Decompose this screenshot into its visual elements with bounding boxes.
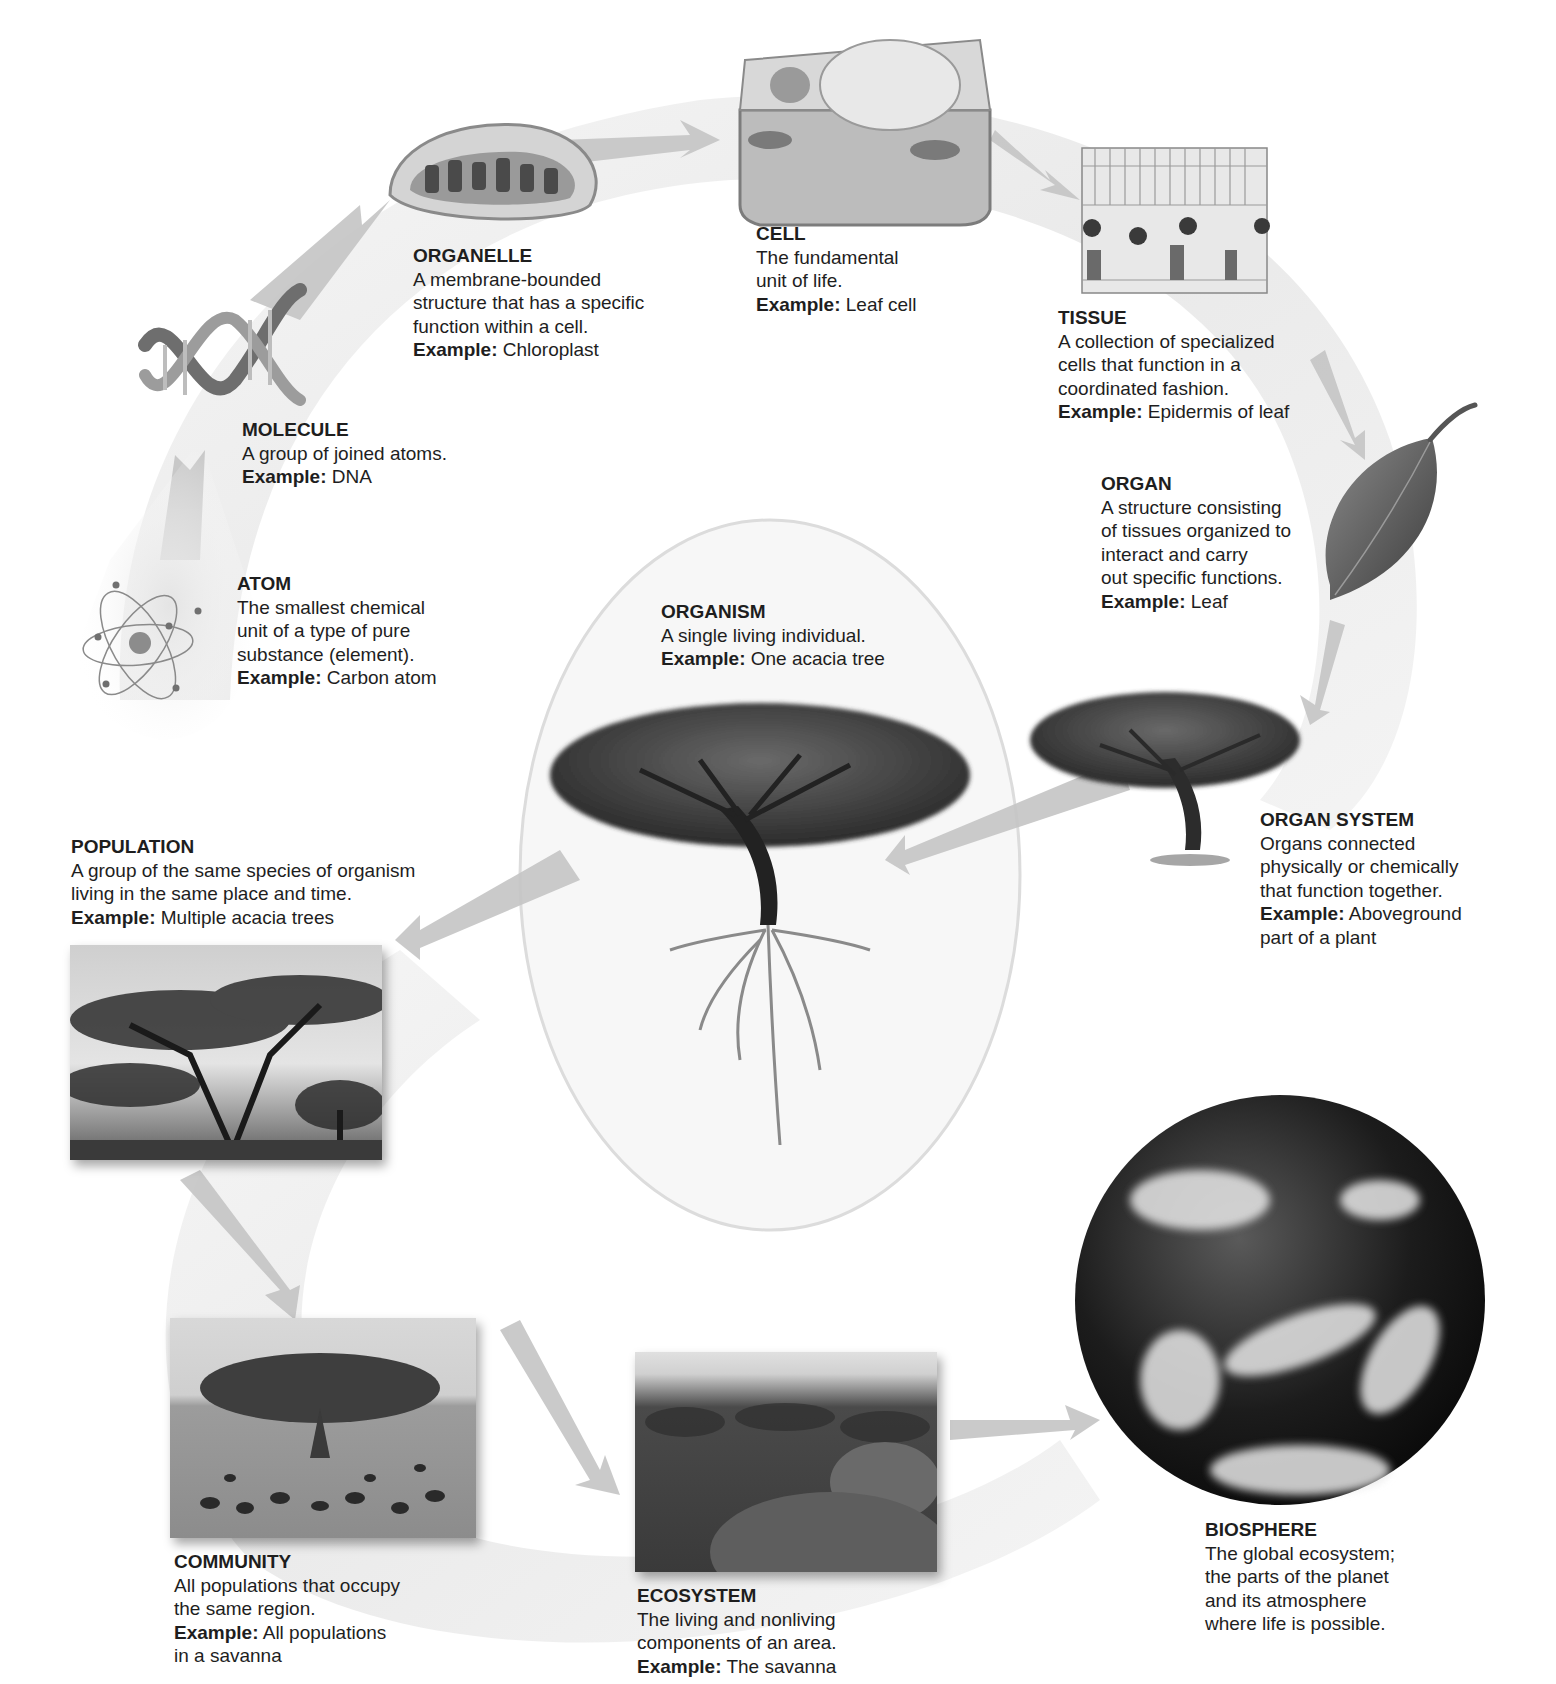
example-key: Example: xyxy=(637,1656,721,1677)
plant-cell-icon xyxy=(740,40,990,225)
leaf-tissue-icon xyxy=(1082,148,1270,293)
level-example: Example: One acacia tree xyxy=(661,647,885,671)
level-example: Example: Leaf xyxy=(1101,590,1291,614)
level-example-continued: part of a plant xyxy=(1260,926,1462,950)
level-description-line: structure that has a specific xyxy=(413,291,644,315)
level-description-line: Organs connected xyxy=(1260,832,1462,856)
example-value: Multiple acacia trees xyxy=(161,907,334,928)
level-description-line: The global ecosystem; xyxy=(1205,1542,1395,1566)
label-organ: ORGAN A structure consisting of tissues … xyxy=(1101,472,1291,613)
example-value: Epidermis of leaf xyxy=(1148,401,1290,422)
level-description-line: physically or chemically xyxy=(1260,855,1462,879)
example-key: Example: xyxy=(1058,401,1142,422)
level-title: POPULATION xyxy=(71,835,415,859)
level-title: BIOSPHERE xyxy=(1205,1518,1395,1542)
level-example: Example: DNA xyxy=(242,465,447,489)
level-title: COMMUNITY xyxy=(174,1550,400,1574)
level-title: ORGAN SYSTEM xyxy=(1260,808,1462,832)
example-key: Example: xyxy=(661,648,745,669)
level-description-line: of tissues organized to xyxy=(1101,519,1291,543)
label-atom: ATOM The smallest chemical unit of a typ… xyxy=(237,572,437,690)
savanna-landscape-photo xyxy=(635,1352,937,1572)
arrow-ecosystem-to-biosphere xyxy=(950,1405,1100,1440)
label-molecule: MOLECULE A group of joined atoms. Exampl… xyxy=(242,418,447,489)
example-key: Example: xyxy=(1101,591,1185,612)
level-title: TISSUE xyxy=(1058,306,1289,330)
level-description-line: A collection of specialized xyxy=(1058,330,1289,354)
example-value: Leaf xyxy=(1191,591,1228,612)
level-example: Example: Leaf cell xyxy=(756,293,917,317)
level-description-line: A group of joined atoms. xyxy=(242,442,447,466)
example-key: Example: xyxy=(71,907,155,928)
level-title: ECOSYSTEM xyxy=(637,1584,837,1608)
level-description-line: cells that function in a xyxy=(1058,353,1289,377)
level-example: Example: Epidermis of leaf xyxy=(1058,400,1289,424)
level-description-line: where life is possible. xyxy=(1205,1612,1395,1636)
example-value: One acacia tree xyxy=(751,648,885,669)
example-key: Example: xyxy=(1260,903,1344,924)
level-description-line: living in the same place and time. xyxy=(71,882,415,906)
example-value: Chloroplast xyxy=(503,339,599,360)
example-key: Example: xyxy=(756,294,840,315)
level-description-line: components of an area. xyxy=(637,1631,837,1655)
label-tissue: TISSUE A collection of specialized cells… xyxy=(1058,306,1289,424)
level-description-line: The smallest chemical xyxy=(237,596,437,620)
example-value: Leaf cell xyxy=(846,294,917,315)
level-title: ATOM xyxy=(237,572,437,596)
label-population: POPULATION A group of the same species o… xyxy=(71,835,415,929)
level-description-line: interact and carry xyxy=(1101,543,1291,567)
level-example: Example: The savanna xyxy=(637,1655,837,1679)
level-title: ORGANISM xyxy=(661,600,885,624)
level-example: Example: Aboveground xyxy=(1260,902,1462,926)
level-description-line: A single living individual. xyxy=(661,624,885,648)
level-description-line: coordinated fashion. xyxy=(1058,377,1289,401)
level-title: ORGANELLE xyxy=(413,244,644,268)
level-title: MOLECULE xyxy=(242,418,447,442)
level-description-line: The fundamental xyxy=(756,246,917,270)
example-key: Example: xyxy=(174,1622,258,1643)
example-key: Example: xyxy=(413,339,497,360)
level-description-line: A membrane-bounded xyxy=(413,268,644,292)
label-organelle: ORGANELLE A membrane-bounded structure t… xyxy=(413,244,644,362)
level-title: CELL xyxy=(756,222,917,246)
level-example-continued: in a savanna xyxy=(174,1644,400,1668)
level-description-line: and its atmosphere xyxy=(1205,1589,1395,1613)
level-example: Example: Multiple acacia trees xyxy=(71,906,415,930)
level-description-line: substance (element). xyxy=(237,643,437,667)
example-value: Aboveground xyxy=(1349,903,1462,924)
level-description-line: unit of life. xyxy=(756,269,917,293)
level-description-line: out specific functions. xyxy=(1101,566,1291,590)
level-description-line: A group of the same species of organism xyxy=(71,859,415,883)
example-value: Carbon atom xyxy=(327,667,437,688)
label-biosphere: BIOSPHERE The global ecosystem; the part… xyxy=(1205,1518,1395,1636)
label-organism: ORGANISM A single living individual. Exa… xyxy=(661,600,885,671)
level-description-line: the same region. xyxy=(174,1597,400,1621)
example-value: All populations xyxy=(263,1622,387,1643)
level-example: Example: Chloroplast xyxy=(413,338,644,362)
label-ecosystem: ECOSYSTEM The living and nonliving compo… xyxy=(637,1584,837,1678)
level-description-line: that function together. xyxy=(1260,879,1462,903)
chloroplast-icon xyxy=(390,124,596,218)
level-description-line: unit of a type of pure xyxy=(237,619,437,643)
level-example: Example: All populations xyxy=(174,1621,400,1645)
level-description-line: The living and nonliving xyxy=(637,1608,837,1632)
label-cell: CELL The fundamental unit of life. Examp… xyxy=(756,222,917,316)
level-title: ORGAN xyxy=(1101,472,1291,496)
level-description-line: A structure consisting xyxy=(1101,496,1291,520)
level-description-line: All populations that occupy xyxy=(174,1574,400,1598)
level-description-line: function within a cell. xyxy=(413,315,644,339)
example-value: DNA xyxy=(332,466,372,487)
earth-globe-icon xyxy=(1075,1095,1485,1505)
level-example: Example: Carbon atom xyxy=(237,666,437,690)
example-value: The savanna xyxy=(726,1656,836,1677)
label-community: COMMUNITY All populations that occupy th… xyxy=(174,1550,400,1668)
example-key: Example: xyxy=(237,667,321,688)
example-key: Example: xyxy=(242,466,326,487)
acacia-trees-photo xyxy=(70,945,382,1160)
savanna-animals-photo xyxy=(170,1318,476,1538)
arrow-community-to-ecosystem xyxy=(500,1320,620,1495)
label-organ-system: ORGAN SYSTEM Organs connected physically… xyxy=(1260,808,1462,949)
level-description-line: the parts of the planet xyxy=(1205,1565,1395,1589)
